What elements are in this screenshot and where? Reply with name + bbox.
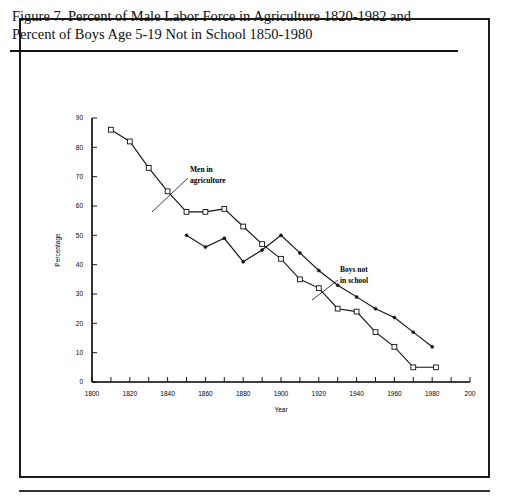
data-point: [317, 269, 320, 272]
data-point: [431, 345, 434, 348]
chart-canvas: 0102030405060708090 18001820184018601880…: [0, 0, 471, 458]
chart-axes: [92, 118, 470, 382]
y-axis-ticks: 0102030405060708090: [76, 114, 97, 385]
y-tick-label: 30: [76, 290, 84, 297]
y-tick-label: 70: [76, 173, 84, 180]
x-tick-label: 200: [465, 390, 476, 397]
annotation-men-line2: agriculture: [190, 176, 226, 185]
annotation-boys-line1: Boys not: [340, 265, 368, 274]
data-point: [336, 284, 339, 287]
data-point: [393, 316, 396, 319]
data-point: [335, 306, 340, 311]
data-point: [298, 251, 301, 254]
data-point: [204, 246, 207, 249]
series-line-1: [187, 235, 433, 346]
data-point: [374, 307, 377, 310]
y-tick-label: 60: [76, 202, 84, 209]
y-tick-label: 90: [76, 114, 84, 121]
y-axis-title: Percentage: [54, 233, 62, 267]
x-tick-label: 1940: [349, 390, 364, 397]
data-point: [127, 139, 132, 144]
y-tick-label: 40: [76, 261, 84, 268]
data-point: [241, 224, 246, 229]
x-tick-label: 1840: [160, 390, 175, 397]
data-point: [165, 189, 170, 194]
data-point: [316, 286, 321, 291]
data-point: [298, 277, 303, 282]
x-tick-label: 1860: [198, 390, 213, 397]
x-tick-label: 1960: [387, 390, 402, 397]
x-tick-label: 1800: [85, 390, 100, 397]
x-axis-ticks: 1800182018401860188019001920194019601980…: [85, 377, 476, 397]
data-point: [261, 249, 264, 252]
annotation-boys-line2: in school: [340, 276, 368, 285]
data-point: [222, 207, 227, 212]
data-point: [354, 309, 359, 314]
x-tick-label: 1820: [123, 390, 138, 397]
data-point: [411, 365, 416, 370]
data-point: [260, 242, 265, 247]
x-axis-title: Year: [274, 406, 288, 413]
data-point: [184, 209, 189, 214]
data-point: [355, 295, 358, 298]
data-point: [280, 234, 283, 237]
data-point: [185, 234, 188, 237]
x-tick-label: 1900: [274, 390, 289, 397]
series-line-0: [111, 130, 436, 368]
annotation-men-line1: Men in: [190, 165, 214, 174]
data-point: [223, 237, 226, 240]
y-tick-label: 80: [76, 144, 84, 151]
annotation-layer: Men inagricultureBoys notin school: [152, 165, 368, 300]
line-chart: 0102030405060708090 18001820184018601880…: [0, 0, 500, 458]
y-tick-label: 20: [76, 320, 84, 327]
page-bottom-rule: [19, 490, 490, 492]
data-point: [146, 165, 151, 170]
y-tick-label: 0: [79, 378, 83, 385]
y-tick-label: 50: [76, 232, 84, 239]
data-point: [412, 331, 415, 334]
y-tick-label: 10: [76, 349, 84, 356]
data-point: [279, 256, 284, 261]
data-point: [203, 209, 208, 214]
data-point: [392, 344, 397, 349]
annotation-boys-leader: [312, 280, 338, 300]
data-point: [242, 260, 245, 263]
data-point: [109, 127, 114, 132]
data-series-layer: [109, 127, 439, 369]
data-point: [434, 365, 439, 370]
x-tick-label: 1880: [236, 390, 251, 397]
x-tick-label: 1980: [425, 390, 440, 397]
data-point: [373, 330, 378, 335]
x-tick-label: 1920: [312, 390, 327, 397]
